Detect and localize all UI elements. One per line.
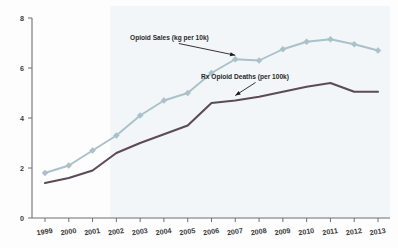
annotation-label-rx-opioid-deaths: Rx Opioid Deaths (per 100k) (201, 73, 289, 81)
y-tick-label: 6 (20, 64, 24, 73)
y-tick-label: 4 (20, 114, 24, 123)
y-tick-label: 2 (20, 164, 24, 173)
chart-canvas: 02468 1999200020012002200320042005200620… (0, 0, 398, 248)
opioid-trends-chart: 02468 1999200020012002200320042005200620… (0, 0, 398, 248)
y-tick-label: 8 (20, 14, 24, 23)
annotation-label-opioid-sales: Opioid Sales (kg per 10k) (130, 34, 209, 42)
y-tick-label: 0 (20, 214, 24, 223)
